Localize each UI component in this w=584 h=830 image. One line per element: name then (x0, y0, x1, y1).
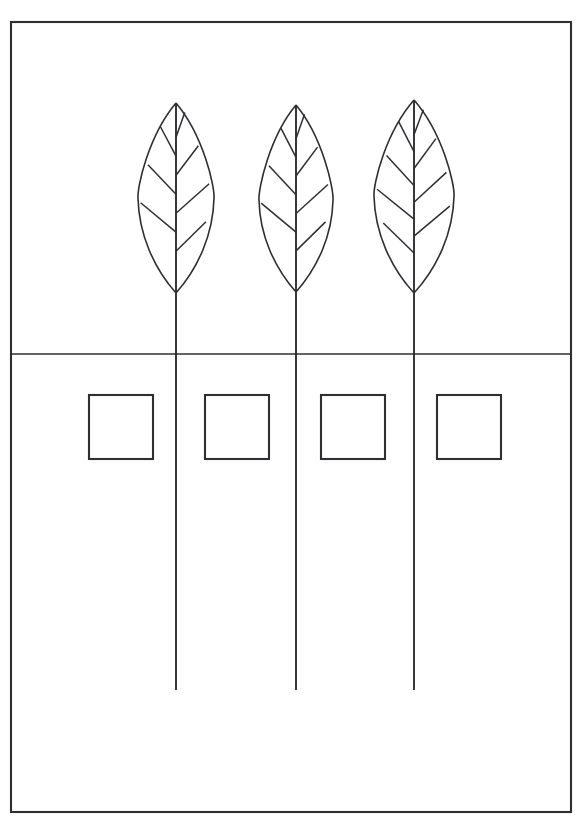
empty-square-1[interactable] (89, 395, 153, 459)
empty-square-2[interactable] (205, 395, 269, 459)
squares-group (89, 395, 501, 459)
drawing-canvas (0, 0, 584, 830)
leaf-drawing-svg (0, 0, 584, 830)
plants-group (138, 100, 454, 690)
empty-square-4[interactable] (437, 395, 501, 459)
empty-square-3[interactable] (321, 395, 385, 459)
